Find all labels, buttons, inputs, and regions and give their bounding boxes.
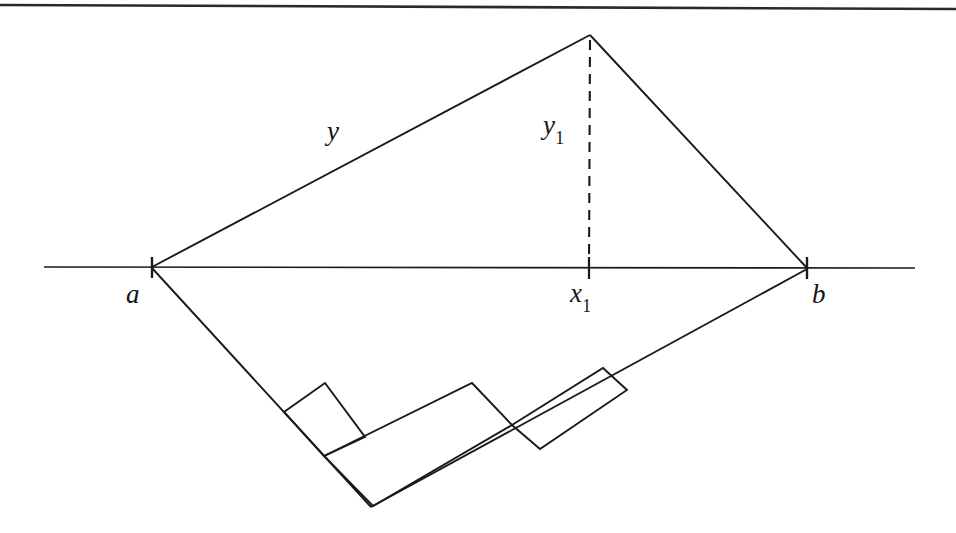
- label-x1: x1: [570, 280, 591, 312]
- label-y: y: [327, 118, 339, 145]
- step-rectangle-3: [512, 368, 627, 449]
- diagram-svg: [0, 0, 956, 533]
- label-y1-base: y: [543, 110, 555, 140]
- label-a: a: [126, 281, 140, 308]
- horizontal-axis-line: [44, 267, 915, 268]
- label-y1-subscript: 1: [555, 128, 564, 148]
- altitude-dashed-line: [589, 40, 590, 266]
- label-b: b: [812, 281, 826, 308]
- figure-canvas: a b x1 y y1: [0, 0, 956, 533]
- label-x1-base: x: [570, 278, 582, 308]
- step-rectangle-1: [284, 383, 365, 456]
- triangle-upper-left-side: [152, 35, 590, 267]
- label-y1: y1: [543, 112, 564, 144]
- top-page-rule: [0, 5, 956, 9]
- label-x1-subscript: 1: [582, 296, 591, 316]
- triangle-upper-right-side: [590, 35, 807, 268]
